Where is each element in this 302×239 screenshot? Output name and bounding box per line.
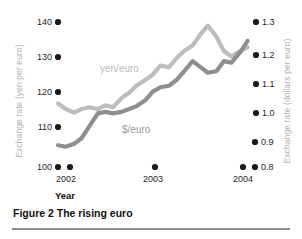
bottom-divider: [12, 228, 290, 230]
figure-container: Exchange rate (yen per euro) Exchange ra…: [0, 0, 302, 239]
x-tick-label-2002: 2002: [46, 174, 86, 184]
x-tick-dots: [0, 0, 302, 239]
series-annotation-yen-euro: yen/euro: [100, 63, 139, 74]
series-annotation-dollar-euro: $/euro: [122, 124, 150, 135]
x-axis-title: Year: [45, 190, 85, 201]
figure-caption: Figure 2 The rising euro: [13, 207, 133, 219]
x-tick-label-2004: 2004: [223, 174, 263, 184]
x-tick-label-2003: 2003: [133, 174, 173, 184]
